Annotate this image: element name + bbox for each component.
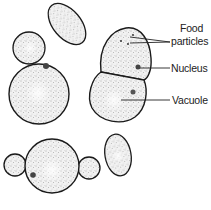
nucleus-dot xyxy=(30,172,36,178)
nucleus-dot xyxy=(136,65,141,70)
cell-right-lower xyxy=(90,72,147,122)
label-particles: particles xyxy=(171,36,208,47)
cell-left-large xyxy=(9,63,69,124)
label-nucleus: Nucleus xyxy=(171,63,208,74)
cell-right-upper xyxy=(101,28,152,80)
yeast-diagram: Food particles Nucleus Vacuole xyxy=(0,0,211,210)
nucleus-dot xyxy=(43,63,49,69)
nucleus-dot xyxy=(131,90,136,95)
label-food: Food xyxy=(180,23,203,34)
cell-elongated-bottom xyxy=(102,132,135,178)
cell-elongated-top xyxy=(41,0,93,51)
cell-cluster-bottom xyxy=(4,139,100,193)
label-vacuole: Vacuole xyxy=(172,95,208,106)
cell-bud-topleft xyxy=(13,32,45,64)
